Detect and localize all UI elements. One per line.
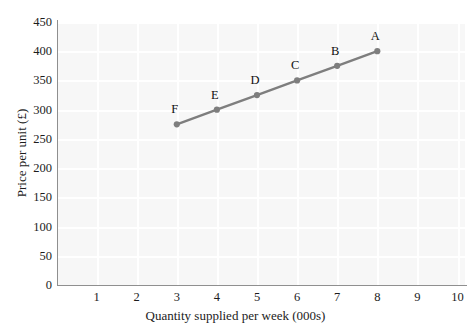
y-tick-label: 400 xyxy=(33,45,52,58)
gridline-horizontal xyxy=(58,51,465,53)
x-tick-label: 1 xyxy=(82,291,112,304)
gridline-vertical xyxy=(337,22,339,285)
y-tick-label: 100 xyxy=(33,221,52,234)
x-tick-label: 7 xyxy=(322,291,352,304)
gridline-vertical xyxy=(217,22,219,285)
gridline-vertical xyxy=(137,22,139,285)
y-tick-label: 200 xyxy=(33,162,52,175)
gridline-vertical xyxy=(417,22,419,285)
gridline-horizontal xyxy=(58,22,465,24)
data-point-label: A xyxy=(363,30,387,43)
data-point-label: C xyxy=(283,59,307,72)
plot-area xyxy=(58,22,465,285)
gridline-vertical xyxy=(257,22,259,285)
data-point-label: D xyxy=(243,74,267,87)
y-tick-label: 0 xyxy=(46,279,52,292)
gridline-vertical xyxy=(458,22,460,285)
gridline-vertical xyxy=(97,22,99,285)
x-tick-label: 6 xyxy=(282,291,312,304)
x-axis-line xyxy=(57,285,467,286)
gridline-vertical xyxy=(377,22,379,285)
x-tick-label: 8 xyxy=(362,291,392,304)
y-axis-line xyxy=(57,20,58,286)
supply-curve-chart: 050100150200250300350400450 12345678910 … xyxy=(0,0,471,331)
y-tick-label: 450 xyxy=(33,16,52,29)
x-tick-label: 5 xyxy=(242,291,272,304)
x-tick-label: 4 xyxy=(202,291,232,304)
gridline-horizontal xyxy=(58,168,465,170)
data-point-label: F xyxy=(163,103,187,116)
x-tick-label: 2 xyxy=(122,291,152,304)
x-axis-title: Quantity supplied per week (000s) xyxy=(0,308,471,324)
gridline-horizontal xyxy=(58,227,465,229)
x-tick-label: 3 xyxy=(162,291,192,304)
gridline-horizontal xyxy=(58,197,465,199)
data-point-label: B xyxy=(323,45,347,58)
gridline-vertical xyxy=(177,22,179,285)
y-tick-label: 150 xyxy=(33,191,52,204)
data-point-label: E xyxy=(203,89,227,102)
gridline-horizontal xyxy=(58,110,465,112)
x-tick-label: 9 xyxy=(402,291,432,304)
y-tick-label: 350 xyxy=(33,74,52,87)
gridline-horizontal xyxy=(58,139,465,141)
y-tick-label: 50 xyxy=(40,250,53,263)
x-tick-label: 10 xyxy=(443,291,471,304)
y-axis-title: Price per unit (£) xyxy=(14,68,30,238)
y-tick-label: 300 xyxy=(33,104,52,117)
gridline-horizontal xyxy=(58,256,465,258)
y-tick-label: 250 xyxy=(33,133,52,146)
